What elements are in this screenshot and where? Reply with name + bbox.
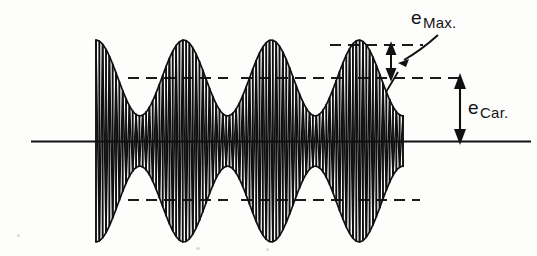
e-car-base: e: [468, 97, 479, 118]
emax-leader-line: [398, 35, 438, 67]
scan-speck: [266, 248, 269, 251]
e-car-label: eCar.: [468, 98, 508, 120]
waveform-canvas: [0, 0, 537, 256]
am-waveform-figure: eMax. eCar.: [0, 0, 537, 256]
modulated-carrier-waveform: [96, 40, 403, 242]
carrier-vertical-strokes: [96, 40, 403, 242]
scan-speck: [17, 234, 20, 237]
e-car-subscript: Car.: [480, 104, 508, 121]
e-max-subscript: Max.: [423, 14, 456, 31]
emax-dimension-arrow: [387, 44, 395, 79]
scan-speck: [196, 247, 200, 250]
ecar-dimension-arrow: [456, 76, 465, 142]
e-max-base: e: [411, 7, 422, 28]
e-max-label: eMax.: [411, 8, 456, 30]
